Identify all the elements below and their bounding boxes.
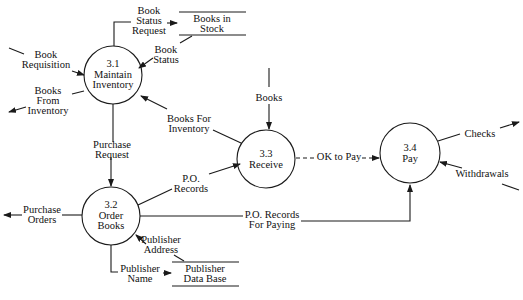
process-3-1-label: 3.1 Maintain Inventory <box>93 59 134 91</box>
process-3-2-label: 3.2 Order Books <box>98 200 125 232</box>
flow-book-status-arrow <box>139 58 153 68</box>
flow-po-records-for-paying-arrow <box>301 185 410 221</box>
flow-label-book-status: Book Status <box>153 45 179 65</box>
flow-checks-arrow <box>500 122 519 128</box>
flow-books-from-inventory-arrow <box>9 107 26 112</box>
flow-publisher-name-tail <box>111 245 118 272</box>
flow-publisher-address-tail <box>174 255 184 261</box>
flow-book-status-request-line <box>114 22 131 46</box>
flow-label-book-status-request: Book Status Request <box>132 6 166 36</box>
flow-label-book-requisition: Book Requisition <box>22 50 70 70</box>
flow-label-publisher-name: Publisher Name <box>120 264 160 284</box>
flow-label-po-records: P.O. Records <box>174 174 208 194</box>
flow-label-books: Books <box>256 93 283 103</box>
store-books-in-stock-label: Books in Stock <box>193 14 231 34</box>
flow-books-from-inventory-tail <box>72 91 84 94</box>
flow-label-checks: Checks <box>465 129 496 139</box>
flow-books-for-inventory-arrow <box>141 96 167 109</box>
flow-books-for-inventory-tail <box>213 130 241 143</box>
flow-label-books-for-inventory: Books For Inventory <box>167 114 211 134</box>
flow-label-po-records-for-paying: P.O. Records For Paying <box>245 210 300 230</box>
flow-withdrawals-tail <box>502 184 519 190</box>
flow-label-purchase-request: Purchase Request <box>93 140 131 160</box>
flow-label-publisher-address: Publisher Address <box>141 235 181 255</box>
flow-checks-tail <box>438 134 460 141</box>
flow-book-requisition-arrow <box>72 71 84 75</box>
flow-label-withdrawals: Withdrawals <box>455 169 508 179</box>
flow-book-status-tail <box>180 36 192 43</box>
process-3-3-label: 3.3 Receive <box>249 149 283 170</box>
process-3-4-label: 3.4 Pay <box>402 143 418 164</box>
flow-po-records-tail <box>138 189 172 205</box>
flow-po-records-arrow <box>209 164 240 174</box>
store-publisher-label: Publisher Data Base <box>184 264 227 284</box>
flow-label-books-from-inventory: Books From Inventory <box>28 86 69 116</box>
flow-label-ok-to-pay: OK to Pay <box>317 152 361 162</box>
flow-label-purchase-orders: Purchase Orders <box>23 205 61 225</box>
